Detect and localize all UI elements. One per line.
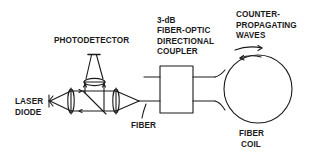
laser-diode-label-line1: LASER [15,97,43,108]
coupler-label-line1: 3-dB [157,16,176,27]
fiber-gyroscope-diagram: PHOTODETECTOR 3-dB FIBER-OPTIC DIRECTION… [0,0,319,157]
fiber-coil-label-line1: FIBER [239,129,264,140]
coupler-label-line3: DIRECTIONAL [157,37,214,48]
photodetector-icon [84,55,105,86]
coupler-label-line2: FIBER-OPTIC [157,26,210,37]
waves-label-line2: PROPAGATING [236,21,297,32]
fiber-label: FIBER [131,121,156,132]
laser-diode-label-line2: DIODE [15,108,41,119]
photodetector-label: PHOTODETECTOR [54,36,129,47]
input-fiber [139,77,160,118]
collimating-lens-icon [68,88,74,114]
directional-coupler-box [160,66,193,113]
coil-leads [193,70,225,110]
focusing-lens-icon [113,88,139,114]
fiber-coil-icon [224,55,292,123]
reflected-beam [84,82,106,111]
coupler-label-line4: COUPLER [157,47,198,58]
waves-label-line3: WAVES [236,31,265,42]
counter-propagating-arrows-icon [235,46,262,61]
waves-label-line1: COUNTER- [236,10,280,21]
fiber-coil-label-line2: COIL [241,140,261,151]
